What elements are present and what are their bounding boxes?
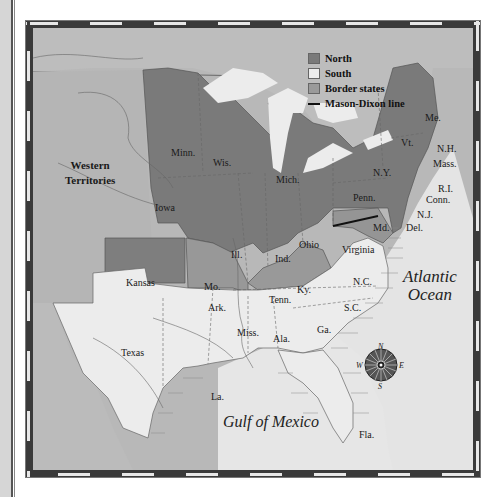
label-western: Western (65, 158, 115, 173)
label-minn: Minn. (171, 148, 195, 158)
label-md: Md. (373, 223, 389, 233)
border-states-swatch (308, 83, 320, 94)
label-ky: Ky. (297, 285, 311, 295)
compass-s: S (378, 383, 382, 391)
map-legend: North South Border states Mason-Dixon li… (308, 51, 405, 111)
page-edge-strip (0, 0, 13, 497)
frame-border-bottom (26, 473, 480, 476)
compass-e: E (399, 362, 404, 370)
compass-w: W (356, 362, 363, 370)
label-tenn: Tenn. (269, 295, 291, 305)
frame-border-left (27, 21, 30, 477)
label-kansas: Kansas (126, 278, 155, 288)
label-ark: Ark. (208, 303, 226, 313)
mason-dixon-line-swatch (308, 103, 320, 105)
civil-war-states-map: North South Border states Mason-Dixon li… (33, 28, 473, 470)
label-fla: Fla. (359, 430, 374, 440)
label-la: La. (211, 392, 224, 402)
label-iowa: Iowa (155, 203, 175, 213)
label-mich: Mich. (276, 175, 300, 185)
label-ill: Ill. (231, 250, 242, 260)
page-edge-line (14, 0, 15, 497)
label-vt: Vt. (401, 138, 414, 148)
south-swatch (308, 68, 320, 79)
label-ri: R.I. (438, 184, 453, 194)
label-mo: Mo. (204, 282, 220, 292)
legend-label: Mason-Dixon line (325, 98, 405, 109)
label-ind: Ind. (275, 254, 291, 264)
label-atlantic: Atlantic (403, 268, 457, 286)
label-mass: Mass. (433, 159, 457, 169)
north-swatch (308, 53, 320, 64)
compass-rose-icon (365, 349, 397, 381)
label-ny: N.Y. (373, 168, 391, 178)
label-miss: Miss. (237, 328, 259, 338)
label-sc: S.C. (344, 303, 361, 313)
legend-label: North (325, 53, 352, 64)
frame-border-top (26, 22, 480, 25)
label-nc: N.C. (353, 277, 372, 287)
legend-item-border-states: Border states (308, 81, 405, 96)
compass-n: N (378, 343, 383, 351)
label-del: Del. (406, 223, 423, 233)
legend-label: South (325, 68, 351, 79)
label-nh: N.H. (437, 144, 456, 154)
label-ala: Ala. (273, 334, 290, 344)
legend-item-south: South (308, 66, 405, 81)
label-penn: Penn. (353, 193, 376, 203)
legend-item-north: North (308, 51, 405, 66)
label-virginia: Virginia (342, 245, 375, 255)
label-me: Me. (425, 113, 441, 123)
legend-item-mason-dixon: Mason-Dixon line (308, 96, 405, 111)
label-ohio: Ohio (299, 240, 319, 250)
frame-border-right (476, 21, 479, 477)
legend-label: Border states (325, 83, 385, 94)
label-atlantic-ocean: Atlantic Ocean (403, 268, 457, 304)
label-texas: Texas (121, 348, 144, 358)
map-shapes (33, 28, 473, 470)
label-western-territories: Western Territories (65, 158, 115, 189)
label-ocean: Ocean (403, 286, 457, 304)
label-wis: Wis. (213, 158, 231, 168)
label-ga: Ga. (317, 325, 331, 335)
label-territories: Territories (65, 173, 115, 188)
label-nj: N.J. (417, 210, 433, 220)
label-gulf-of-mexico: Gulf of Mexico (223, 414, 319, 431)
label-conn: Conn. (426, 195, 450, 205)
